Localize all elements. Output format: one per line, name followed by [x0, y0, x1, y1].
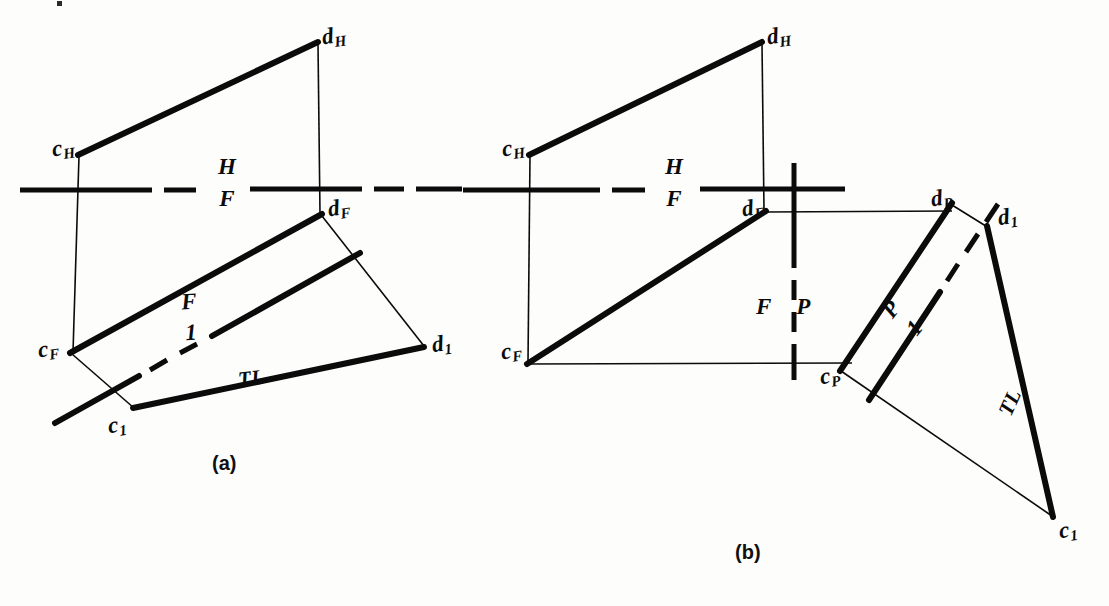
- panel-b-geometry: [463, 42, 1053, 517]
- panel-b-hf-reference-line: [463, 189, 845, 190]
- label-cf-panel-a: cF: [36, 336, 60, 364]
- label-cp-panel-b: cP: [818, 363, 841, 391]
- fold-line-label-hf-panel-b: H F: [657, 155, 691, 211]
- fold-label-f: F: [210, 187, 244, 210]
- fold-label-f: F: [756, 294, 774, 319]
- panel-b-line-cf-df: [527, 211, 766, 364]
- panel-b-projector-dp-d1: [952, 205, 989, 228]
- label-tl-panel-a: TL: [237, 366, 266, 390]
- label-d1-panel-a: d1: [430, 331, 453, 359]
- label-c1-panel-b: c1: [1057, 517, 1078, 545]
- fold-label-f: F: [657, 187, 691, 210]
- panel-b-projector-ch-cf: [528, 156, 530, 363]
- label-ch-panel-b: cH: [500, 135, 526, 163]
- label-c1-panel-a: c1: [106, 412, 127, 440]
- fold-label-h: H: [657, 155, 691, 178]
- fold-label-1: 1: [175, 320, 207, 345]
- fold-line-label-hf-panel-a: H F: [210, 155, 244, 211]
- panel-a-geometry: [20, 42, 462, 423]
- label-cf-panel-b: cF: [499, 338, 523, 366]
- label-df-panel-a: dF: [326, 195, 351, 223]
- label-ch-panel-a: cH: [50, 135, 76, 163]
- fold-label-h: H: [210, 155, 244, 178]
- caption-panel-b: (b): [735, 541, 761, 564]
- label-dh-panel-b: dH: [765, 22, 792, 50]
- fold-label-f: F: [173, 289, 205, 314]
- panel-a-projector-df-d1: [322, 216, 424, 346]
- fold-label-p: P: [796, 294, 813, 319]
- label-dp-panel-b: dP: [929, 185, 953, 213]
- print-speck: [57, 1, 62, 6]
- fold-line-label-f1-panel-a: F 1: [173, 289, 207, 346]
- label-df-panel-b: dF: [740, 195, 765, 223]
- panel-b-line-cp-dp: [840, 203, 952, 371]
- fold-line-label-fp-panel-b: FP: [756, 294, 813, 320]
- panel-a-line-ch-dh: [78, 42, 318, 155]
- panel-a-projector-ch-cf: [73, 156, 79, 352]
- panel-a-line-c1-d1-true-length: [133, 347, 424, 408]
- label-dh-panel-a: dH: [320, 22, 347, 50]
- figure-root: dH cH H F dF F 1 cF d1 TL c1 (a) dH cH H…: [0, 0, 1109, 606]
- panel-b-line-ch-dh: [529, 42, 762, 155]
- panel-b-projector-dh-df: [762, 44, 764, 210]
- panel-b-projector-cf-cp: [528, 363, 852, 364]
- technical-drawing-canvas: [0, 0, 1109, 606]
- panel-b-projector-df-dp: [766, 211, 952, 212]
- caption-panel-a: (a): [212, 452, 236, 475]
- panel-b-line-c1-d1-true-length: [987, 226, 1053, 517]
- label-d1-panel-b: d1: [996, 204, 1019, 232]
